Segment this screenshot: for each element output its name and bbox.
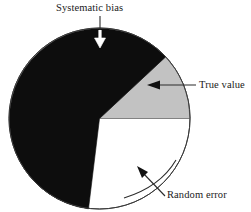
systematic-bias-label: Systematic bias xyxy=(56,2,123,14)
pie-chart-graphic xyxy=(0,0,251,212)
true-value-label: True value xyxy=(199,79,245,91)
figure-canvas: Systematic bias True value Random error xyxy=(0,0,251,212)
random-error-label: Random error xyxy=(167,189,227,201)
